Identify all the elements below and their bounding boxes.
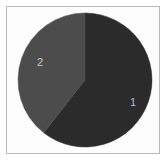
pie-slice-label-1: 1 [130, 96, 136, 108]
pie-slice-label-2: 2 [37, 56, 43, 68]
pie-chart-figure: 1 2 [0, 0, 167, 161]
pie-slices [18, 13, 152, 147]
pie-chart-svg: 1 2 [0, 0, 167, 161]
